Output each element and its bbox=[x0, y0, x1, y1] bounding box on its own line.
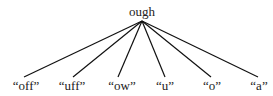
leaf-node-uff: “uff” bbox=[59, 79, 85, 92]
leaf-node-off: “off” bbox=[13, 79, 39, 92]
leaf-node-o: “o” bbox=[203, 79, 221, 92]
leaf-node-a: “a” bbox=[250, 79, 267, 92]
leaf-node-u: “u” bbox=[156, 79, 174, 92]
root-node-ough: ough bbox=[129, 5, 155, 18]
leaf-node-ow: “ow” bbox=[108, 79, 135, 92]
edge-3 bbox=[142, 21, 165, 77]
edge-2 bbox=[118, 21, 142, 77]
